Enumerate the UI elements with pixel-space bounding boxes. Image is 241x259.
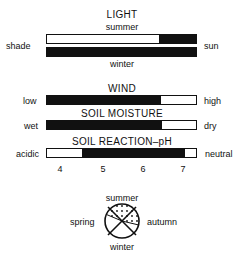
ph-tick-5: 5 xyxy=(100,164,105,174)
soil-moisture-left-label: wet xyxy=(24,121,38,131)
wind-title: WIND xyxy=(108,83,136,94)
wind-bar xyxy=(46,95,197,105)
ph-tick-6: 6 xyxy=(140,164,145,174)
light-winter-bar xyxy=(46,47,197,57)
soil-moisture-title: SOIL MOISTURE xyxy=(81,108,163,119)
light-title: LIGHT xyxy=(107,9,138,20)
soil-reaction-left-label: acidic xyxy=(16,149,39,159)
light-left-label: shade xyxy=(6,41,31,51)
soil-reaction-title: SOIL REACTION–pH xyxy=(72,136,172,147)
wind-left-label: low xyxy=(23,96,37,106)
ph-tick-4: 4 xyxy=(57,164,62,174)
light-summer-fill xyxy=(159,35,196,43)
soil-reaction-bar xyxy=(46,148,197,158)
season-winter-label: winter xyxy=(110,242,134,252)
soil-moisture-right-label: dry xyxy=(204,121,217,131)
soil-reaction-right-label: neutral xyxy=(205,149,233,159)
light-summer-label: summer xyxy=(106,22,139,32)
soil-moisture-fill xyxy=(47,121,162,129)
light-summer-bar xyxy=(46,34,197,44)
wind-fill xyxy=(47,96,161,104)
light-right-label: sun xyxy=(204,41,219,51)
soil-moisture-bar xyxy=(46,120,197,130)
ph-tick-7: 7 xyxy=(180,164,185,174)
light-winter-label: winter xyxy=(110,59,134,69)
season-autumn-label: autumn xyxy=(147,217,177,227)
season-spring-label: spring xyxy=(70,217,95,227)
soil-reaction-fill xyxy=(82,149,185,157)
wind-right-label: high xyxy=(204,96,221,106)
season-wheel-icon xyxy=(100,199,144,243)
